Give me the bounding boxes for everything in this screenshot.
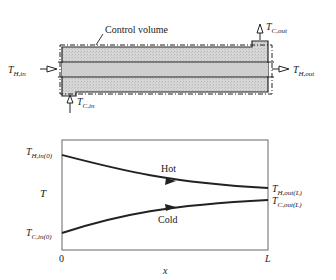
y-axis-label: T xyxy=(40,187,47,199)
hot-curve-label: Hot xyxy=(161,163,176,174)
x-tick-0: 0 xyxy=(59,253,64,264)
cold-outlet-label: TC,out xyxy=(266,21,288,35)
cold-direction-arrow-icon xyxy=(165,204,176,211)
cold-inlet-label: TC,in xyxy=(77,96,95,110)
cold-inlet-temp-label: TC,in(0) xyxy=(26,227,52,241)
x-tick-L: L xyxy=(264,253,271,264)
cold-outlet-arrow-icon xyxy=(257,24,263,33)
cold-outlet-temp-label: TC,out(L) xyxy=(272,195,302,209)
plot-frame xyxy=(62,140,268,250)
hot-inlet-arrow-icon xyxy=(47,66,57,72)
heat-exchanger-schematic: Control volume TH,in TH,out TC,in TC,out xyxy=(8,21,315,113)
temperature-profile-plot: Hot Cold TH,in(0) TC,in(0) T TH,out(L) T… xyxy=(26,140,303,276)
heat-exchanger-figure: Control volume TH,in TH,out TC,in TC,out xyxy=(0,0,336,280)
hot-outlet-label: TH,out xyxy=(293,64,315,78)
hot-inlet-temp-label: TH,in(0) xyxy=(26,146,53,160)
control-volume-leader xyxy=(96,34,103,45)
hot-inlet-label: TH,in xyxy=(8,64,26,78)
x-axis-label: x xyxy=(162,265,168,276)
control-volume-label: Control volume xyxy=(105,24,169,35)
cold-curve-label: Cold xyxy=(158,214,177,225)
hot-outlet-arrow-icon xyxy=(279,66,289,72)
